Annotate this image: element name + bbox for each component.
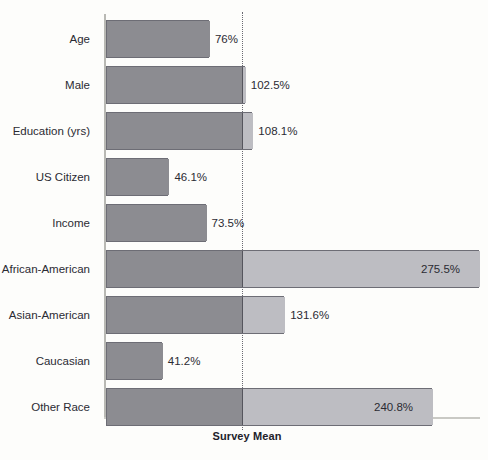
bar-row: Other Race240.8% <box>0 388 488 434</box>
bar-value-label: 102.5% <box>251 66 290 104</box>
bar-value-label: 41.2% <box>168 342 201 380</box>
bar <box>106 20 209 58</box>
bar-row: Asian-American131.6% <box>0 296 488 342</box>
bar-value-label: 131.6% <box>290 296 329 334</box>
bar-value-label: 76% <box>215 20 238 58</box>
bar-segment-below-reference <box>107 251 242 287</box>
category-label: African-American <box>0 250 90 288</box>
bar-wrapper <box>106 296 284 334</box>
bar-wrapper <box>106 112 252 150</box>
category-label: Age <box>0 20 90 58</box>
bar-value-label: 108.1% <box>258 112 297 150</box>
bar-segment-above-reference <box>242 113 253 149</box>
bar-segment-below-reference <box>107 389 242 425</box>
bar <box>106 296 284 334</box>
x-axis-title: Survey Mean <box>0 430 488 442</box>
bar-value-label: 240.8% <box>374 388 413 426</box>
bar-segment-below-reference <box>107 297 242 333</box>
bar-segment-below-reference <box>107 21 210 57</box>
x-axis-title-label: Survey Mean <box>213 430 282 442</box>
category-label: Male <box>0 66 90 104</box>
category-label: Other Race <box>0 388 90 426</box>
category-label: Income <box>0 204 90 242</box>
bar-segment-below-reference <box>107 205 207 241</box>
bar <box>106 66 245 104</box>
category-label: Caucasian <box>0 342 90 380</box>
bar-segment-above-reference <box>242 67 245 103</box>
bar-row: Income73.5% <box>0 204 488 250</box>
bar <box>106 204 206 242</box>
category-label: Asian-American <box>0 296 90 334</box>
bar-segment-below-reference <box>107 159 169 195</box>
plot-area: Age76%Male102.5%Education (yrs)108.1%US … <box>0 0 488 460</box>
bar-wrapper <box>106 204 206 242</box>
bar-segment-above-reference <box>242 297 285 333</box>
bar-row: Age76% <box>0 20 488 66</box>
bar-row: Caucasian41.2% <box>0 342 488 388</box>
bar <box>106 342 162 380</box>
category-label: Education (yrs) <box>0 112 90 150</box>
bar-wrapper <box>106 342 162 380</box>
bar-value-label: 73.5% <box>212 204 245 242</box>
bar-wrapper <box>106 66 245 104</box>
bar-segment-below-reference <box>107 67 242 103</box>
bar-wrapper <box>106 158 168 196</box>
bar-row: Education (yrs)108.1% <box>0 112 488 158</box>
bar-value-label: 275.5% <box>421 250 460 288</box>
bar-value-label: 46.1% <box>174 158 207 196</box>
bar-row: US Citizen46.1% <box>0 158 488 204</box>
bar-wrapper <box>106 20 209 58</box>
category-label: US Citizen <box>0 158 90 196</box>
bar-row: Male102.5% <box>0 66 488 112</box>
bar-row: African-American275.5% <box>0 250 488 296</box>
bar-segment-below-reference <box>107 343 163 379</box>
survey-mean-bar-chart: Age76%Male102.5%Education (yrs)108.1%US … <box>0 0 488 460</box>
bar <box>106 158 168 196</box>
bar-segment-below-reference <box>107 113 242 149</box>
bar <box>106 112 252 150</box>
